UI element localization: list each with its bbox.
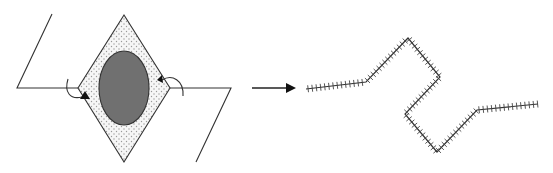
transform-arrow: [252, 83, 296, 93]
diagram-svg: [0, 0, 553, 173]
transform-arrow-head-icon: [286, 83, 296, 93]
right-chain-segment: [170, 88, 231, 162]
left-figure: [17, 14, 231, 162]
gray-ellipse: [99, 51, 149, 125]
diagram-canvas: [0, 0, 553, 173]
hatched-chain: [306, 37, 538, 153]
left-chain-segment: [17, 14, 78, 88]
